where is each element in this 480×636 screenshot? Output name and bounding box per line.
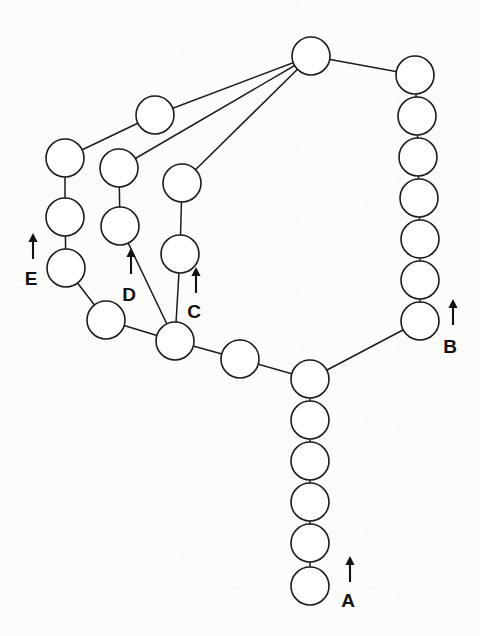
node-c-chain-1 [163, 164, 201, 202]
diagram-canvas: ABCDE [0, 0, 480, 636]
marker-c-label: C [187, 301, 201, 322]
node-a-chain-4 [291, 524, 329, 562]
marker-a-arrow-head-icon [345, 556, 354, 565]
node-right-chain-1 [396, 56, 434, 94]
node-a-chain-5-marker-a [291, 567, 329, 605]
nodes-layer [46, 37, 439, 605]
markers-layer: ABCDE [25, 233, 458, 611]
node-hub-top [292, 37, 330, 75]
node-d-chain-2 [101, 207, 139, 245]
marker-d: D [122, 248, 136, 305]
marker-b: B [443, 299, 457, 357]
node-left-junction [87, 301, 125, 339]
node-right-chain-5 [401, 220, 439, 258]
node-e-chain-1 [46, 139, 84, 177]
node-right-chain-2 [398, 97, 436, 135]
marker-d-arrow-head-icon [126, 248, 135, 257]
node-c-chain-2 [161, 235, 199, 273]
node-e-chain-3-marker-e [47, 249, 85, 287]
marker-a: A [341, 556, 355, 611]
circle-chain-diagram: ABCDE [0, 0, 480, 636]
node-right-chain-7-marker-b [401, 302, 439, 340]
node-main-junction [291, 360, 329, 398]
marker-e: E [25, 233, 38, 289]
node-right-chain-4 [400, 179, 438, 217]
edge-hub-to-upper-mid [155, 56, 311, 115]
node-mid-junction-marker-cd [156, 322, 194, 360]
node-a-chain-3 [291, 483, 329, 521]
node-d-chain-1 [100, 149, 138, 187]
marker-b-arrow-head-icon [448, 299, 457, 308]
marker-b-label: B [443, 336, 457, 357]
node-right-chain-6 [401, 261, 439, 299]
node-upper-mid-node [136, 96, 174, 134]
node-right-chain-3 [399, 138, 437, 176]
marker-c: C [187, 267, 201, 322]
node-e-chain-2 [46, 198, 84, 236]
node-a-chain-2 [291, 442, 329, 480]
marker-e-arrow-head-icon [28, 233, 37, 242]
marker-d-label: D [122, 284, 136, 305]
node-a-chain-1 [291, 401, 329, 439]
marker-e-label: E [25, 268, 38, 289]
marker-a-label: A [341, 590, 355, 611]
node-mid-link-node [221, 340, 259, 378]
